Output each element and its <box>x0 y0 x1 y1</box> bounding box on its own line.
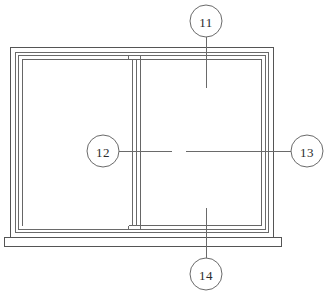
callout-14-label: 14 <box>199 268 213 283</box>
callout-11-label: 11 <box>199 15 213 30</box>
callout-14: 14 <box>190 258 222 290</box>
center-mullion <box>129 56 141 230</box>
right-glass-pane <box>141 60 262 226</box>
callout-12: 12 <box>87 135 119 167</box>
sill-board <box>5 238 282 247</box>
callout-13-label: 13 <box>300 145 314 160</box>
callout-11: 11 <box>190 5 222 37</box>
bottom-sill <box>5 238 282 247</box>
patent-figure: 11 12 13 14 <box>0 0 329 295</box>
callout-12-label: 12 <box>96 145 110 160</box>
window-assembly-drawing: 11 12 13 14 <box>0 0 329 295</box>
right-sash-panel <box>141 60 262 226</box>
callout-13: 13 <box>291 135 323 167</box>
